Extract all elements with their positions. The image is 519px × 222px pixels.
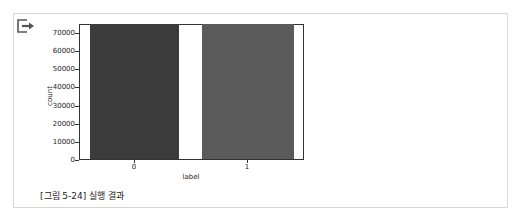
output-arrow-icon bbox=[16, 19, 36, 33]
y-tick-label-6: 60000 bbox=[53, 47, 75, 55]
x-tick-label-1: 1 bbox=[245, 163, 249, 171]
bar-label-1 bbox=[202, 24, 294, 159]
y-tick-label-5: 50000 bbox=[53, 65, 75, 73]
y-tick-label-7: 70000 bbox=[53, 29, 75, 37]
plot-area bbox=[79, 24, 304, 160]
x-tick-label-0: 0 bbox=[132, 163, 136, 171]
x-axis-label: label bbox=[183, 173, 200, 181]
y-tick-label-3: 30000 bbox=[53, 102, 75, 110]
figure-caption: [그림 5-24] 실행 결과 bbox=[40, 189, 124, 202]
y-tick-label-2: 20000 bbox=[53, 120, 75, 128]
y-tick-label-4: 40000 bbox=[53, 83, 75, 91]
y-tick-label-1: 10000 bbox=[53, 138, 75, 146]
y-tick-mark-0 bbox=[75, 160, 79, 161]
bar-label-0 bbox=[90, 24, 179, 159]
